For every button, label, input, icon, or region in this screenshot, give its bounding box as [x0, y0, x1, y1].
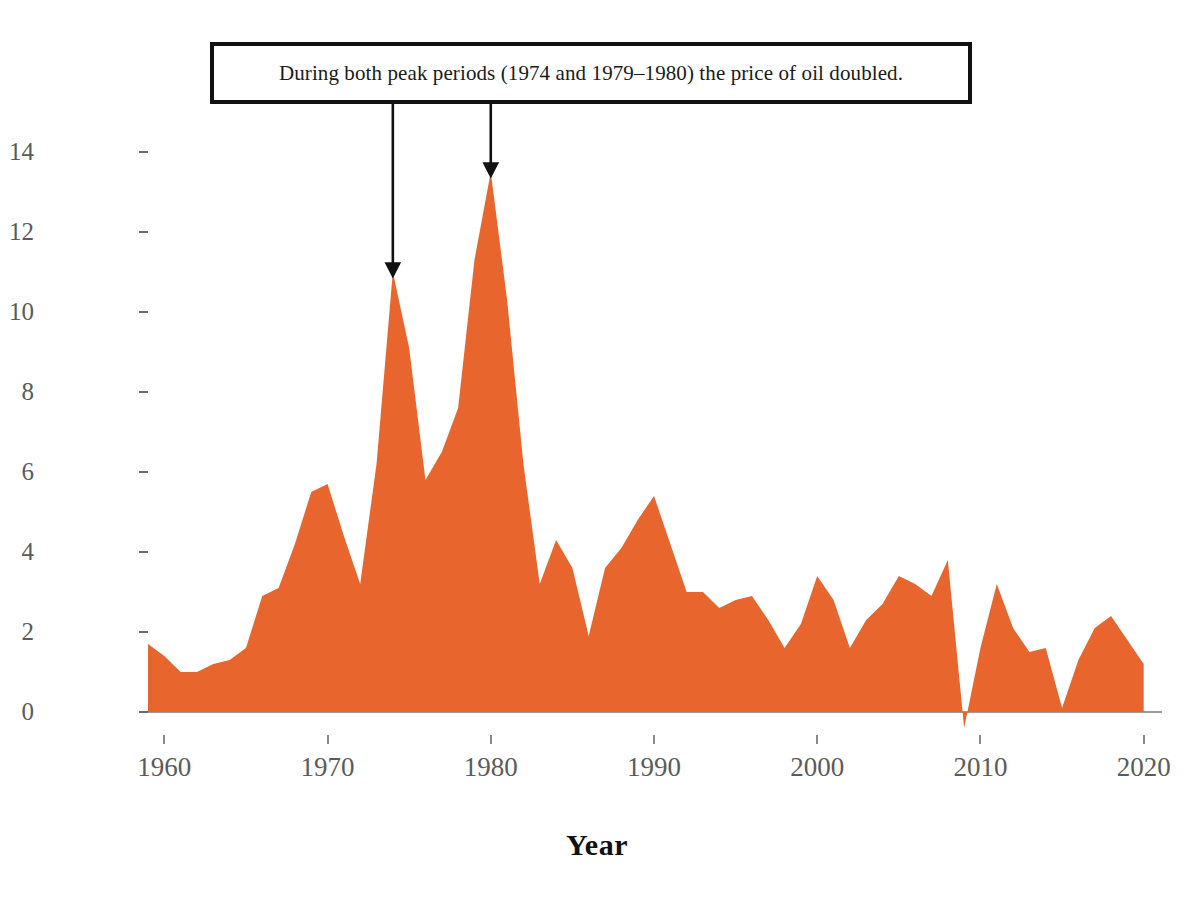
inflation-rate-area-chart: Inflation Rate (%) Year 02468101214 1960… — [0, 0, 1194, 902]
annotation-arrow-layer — [0, 0, 1194, 902]
